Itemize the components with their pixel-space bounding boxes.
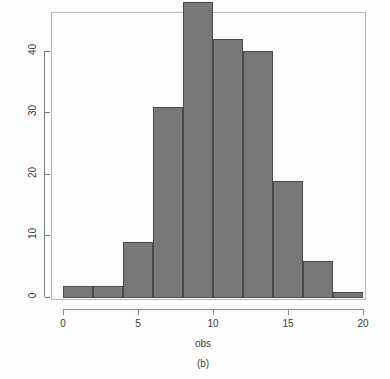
histogram-bar [303,261,333,298]
x-tick-label-20: 20 [351,318,375,329]
x-tick-label-10: 10 [201,318,225,329]
x-tick-label-0: 0 [51,318,75,329]
x-axis-title: obs [8,338,390,349]
histogram-bar [123,242,153,298]
x-tick-label-15: 15 [276,318,300,329]
histogram-figure: frequency 40 30 20 10 0 0 5 10 15 20 obs… [0,0,390,379]
x-tick-label-5: 5 [126,318,150,329]
histogram-bar [333,292,363,298]
histogram-bar [183,2,213,298]
histogram-bar [63,286,93,298]
x-tick-15 [288,310,289,315]
histogram-bar [273,181,303,298]
histogram-bar [213,39,243,298]
x-tick-5 [138,310,139,315]
panel-caption: (b) [8,358,390,369]
x-tick-10 [213,310,214,315]
histogram-bar [153,107,183,298]
histogram-bar [243,51,273,298]
x-tick-20 [363,310,364,315]
histogram-bar [93,286,123,298]
x-tick-0 [63,310,64,315]
